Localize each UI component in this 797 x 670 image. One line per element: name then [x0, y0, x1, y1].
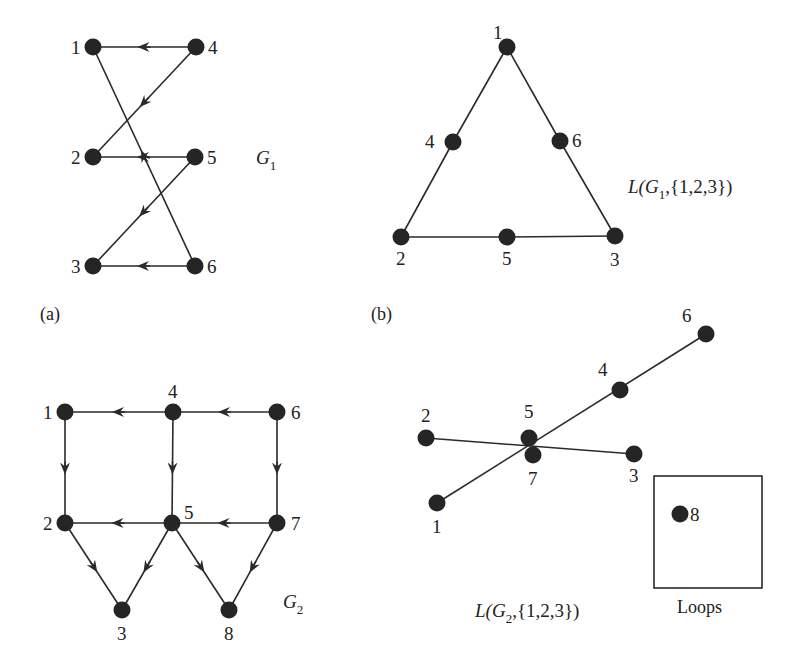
line-graph-lg1: 146253 L(G1,{1,2,3}): [393, 22, 733, 270]
g1-node-1: [85, 39, 102, 56]
loops-label: Loops: [677, 597, 722, 617]
lg1-node-label-6: 6: [572, 130, 582, 151]
g2-node-2: [57, 515, 74, 532]
lg1-node-4: [445, 134, 462, 151]
lg1-node-label-4: 4: [425, 131, 435, 152]
lg2-node-4: [612, 382, 629, 399]
panel-label-b: (b): [371, 304, 392, 325]
g2-node-label-3: 3: [117, 623, 127, 644]
g2-node-label-2: 2: [43, 513, 53, 534]
g2-node-8: [221, 602, 238, 619]
lg1-edge-1-4: [453, 47, 507, 142]
arrowhead-icon: [90, 561, 94, 567]
lg1-node-2: [393, 229, 410, 246]
lg1-node-5: [499, 229, 516, 246]
lg2-node-5: [521, 430, 538, 447]
g2-node-label-1: 1: [43, 402, 53, 423]
g2-node-label-6: 6: [291, 402, 301, 423]
lg1-node-label-3: 3: [610, 249, 620, 270]
g2-node-7: [269, 515, 286, 532]
line-graph-lg2: 6425731 8 Loops L(G2,{1,2,3}): [418, 305, 763, 626]
lg1-edge-5-3: [507, 236, 615, 237]
g1-node-label-2: 2: [71, 147, 81, 168]
arrowhead-icon: [143, 207, 148, 212]
g1-node-label-4: 4: [208, 37, 218, 58]
lg2-nodes: 6425731: [418, 305, 715, 537]
g1-edges: [93, 47, 196, 266]
g1-node-label-6: 6: [207, 256, 217, 277]
lg2-edges: [426, 334, 706, 503]
g2-node-label-8: 8: [224, 623, 234, 644]
arrowhead-icon: [253, 561, 256, 567]
lg1-title: L(G1,{1,2,3}): [627, 176, 732, 202]
lg2-node-label-2: 2: [421, 405, 431, 426]
g2-node-label-7: 7: [291, 513, 301, 534]
lg1-node-label-1: 1: [493, 22, 503, 43]
g1-node-4: [188, 39, 205, 56]
lg2-node-label-4: 4: [598, 359, 608, 380]
loops-node-8: [672, 506, 689, 523]
g2-node-1: [57, 404, 74, 421]
lg1-node-label-5: 5: [502, 248, 512, 269]
lg2-node-label-3: 3: [629, 465, 639, 486]
lg2-node-1: [429, 495, 446, 512]
loops-box: [654, 476, 762, 588]
lg1-nodes: 146253: [393, 22, 624, 270]
lg2-node-label-7: 7: [528, 468, 538, 489]
g1-node-label-5: 5: [207, 147, 217, 168]
lg2-node-label-5: 5: [524, 401, 534, 422]
panel-label-a: (a): [40, 304, 60, 325]
lg2-node-3: [626, 446, 643, 463]
lg2-node-label-6: 6: [682, 305, 692, 326]
lg1-edge-6-3: [560, 141, 615, 236]
g1-node-6: [187, 258, 204, 275]
lg2-edge-1-6: [437, 334, 706, 503]
g2-node-5: [164, 515, 181, 532]
g1-node-label-3: 3: [71, 256, 81, 277]
arrowhead-icon: [197, 561, 201, 567]
loops-nodes: 8: [672, 504, 700, 525]
lg2-title: L(G2,{1,2,3}): [474, 600, 579, 626]
g2-node-3: [114, 602, 131, 619]
g1-node-2: [85, 149, 102, 166]
g2-node-label-4: 4: [168, 381, 178, 402]
g1-node-label-1: 1: [71, 37, 81, 58]
lg2-node-6: [698, 326, 715, 343]
g1-title: G1: [256, 147, 276, 173]
lg1-node-label-2: 2: [396, 248, 406, 269]
lg2-node-2: [418, 430, 435, 447]
loops-node-label-8: 8: [690, 504, 700, 525]
arrowhead-icon: [147, 561, 150, 567]
lg2-node-label-1: 1: [432, 516, 442, 537]
lg1-edge-1-6: [507, 47, 560, 141]
lg1-node-6: [552, 133, 569, 150]
graph-g1: 142536 G1: [71, 37, 276, 277]
graph-g2: 14625738 G2: [43, 381, 303, 644]
g1-node-5: [187, 149, 204, 166]
g1-node-3: [85, 258, 102, 275]
g2-title: G2: [283, 591, 303, 617]
g2-edges: [65, 412, 277, 610]
arrowhead-icon: [144, 98, 149, 103]
g2-node-label-5: 5: [184, 502, 194, 523]
figure-canvas: 142536 G1 146253 L(G1,{1,2,3}) (a) (b) 1…: [0, 0, 797, 670]
lg1-node-3: [607, 228, 624, 245]
g2-node-4: [165, 404, 182, 421]
lg2-node-7: [525, 447, 542, 464]
lg1-edge-4-2: [401, 142, 453, 237]
g2-node-6: [269, 404, 286, 421]
